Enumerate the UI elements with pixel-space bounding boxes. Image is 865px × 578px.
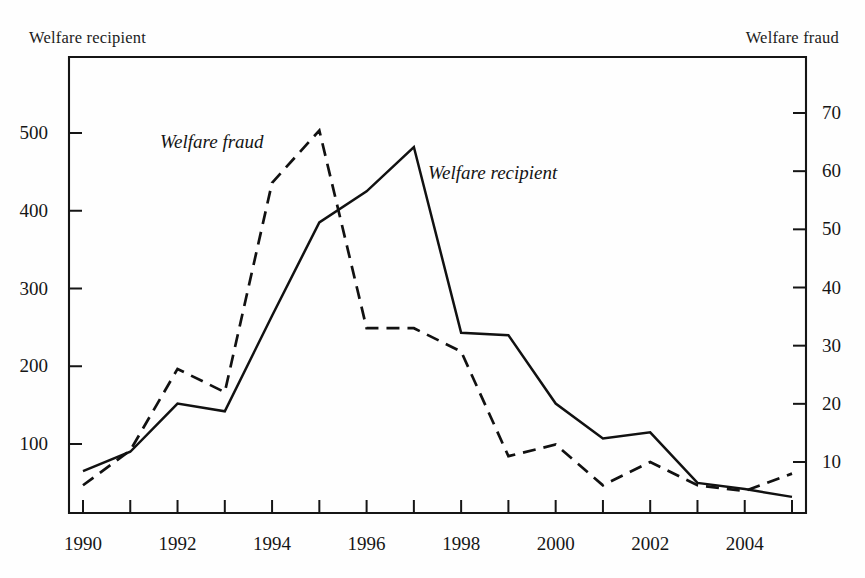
y-axis-left-tick-label: 500 bbox=[0, 122, 48, 144]
plot-frame bbox=[69, 57, 806, 513]
y-axis-right-tick-label: 40 bbox=[822, 277, 841, 299]
x-axis-tick-label: 1998 bbox=[442, 533, 480, 555]
x-axis-tick-label: 2000 bbox=[537, 533, 575, 555]
y-axis-right-tick-label: 20 bbox=[822, 393, 841, 415]
plot-area bbox=[0, 0, 865, 578]
x-axis-tick-label: 2002 bbox=[631, 533, 669, 555]
y-axis-left-tick-label: 400 bbox=[0, 200, 48, 222]
y-axis-right-tick-label: 50 bbox=[822, 218, 841, 240]
data-series bbox=[83, 130, 792, 496]
y-axis-left-tick-label: 200 bbox=[0, 355, 48, 377]
x-axis-tick-label: 1994 bbox=[253, 533, 291, 555]
y-axis-right-tick-label: 10 bbox=[822, 451, 841, 473]
x-axis-tick-label: 2004 bbox=[726, 533, 764, 555]
y-axis-right-tick-label: 70 bbox=[822, 102, 841, 124]
x-axis-tick-label: 1992 bbox=[159, 533, 197, 555]
x-axis-tick-label: 1996 bbox=[348, 533, 386, 555]
y-axis-right-tick-label: 60 bbox=[822, 160, 841, 182]
series-line-welfare-recipient bbox=[83, 147, 792, 497]
series-annotation-welfare-recipient: Welfare recipient bbox=[428, 162, 557, 184]
series-annotation-welfare-fraud: Welfare fraud bbox=[160, 131, 264, 153]
y-axis-left-tick-label: 100 bbox=[0, 433, 48, 455]
series-line-welfare-fraud bbox=[83, 130, 792, 491]
y-axis-left-tick-label: 300 bbox=[0, 278, 48, 300]
y-axis-right-tick-label: 30 bbox=[822, 335, 841, 357]
x-axis-tick-label: 1990 bbox=[64, 533, 102, 555]
chart-container: Welfare recipient Welfare fraud 10020030… bbox=[0, 0, 865, 578]
